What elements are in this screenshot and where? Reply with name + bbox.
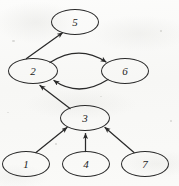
graph-node-6[interactable]: 6: [101, 58, 149, 84]
graph-node-label: 4: [83, 159, 89, 170]
graph-node-7[interactable]: 7: [121, 151, 169, 177]
graph-node-2[interactable]: 2: [8, 58, 58, 84]
scan-speck: [170, 120, 172, 122]
scan-speck: [55, 143, 57, 145]
graph-node-label: 6: [122, 66, 128, 77]
scan-speck: [100, 96, 102, 97]
graph-node-5[interactable]: 5: [51, 9, 99, 35]
scan-speck: [12, 40, 15, 42]
graph-node-1[interactable]: 1: [2, 151, 50, 177]
scan-speck: [7, 112, 9, 113]
graph-node-label: 7: [142, 159, 148, 170]
graph-node-label: 3: [82, 113, 88, 124]
graph-node-label: 1: [23, 159, 29, 170]
scan-speck: [160, 30, 162, 32]
graph-node-4[interactable]: 4: [62, 151, 110, 177]
graph-node-label: 2: [30, 66, 36, 77]
edge-6-to-2: [54, 80, 108, 90]
edge-3-to-2: [40, 86, 70, 109]
directed-graph-figure: 5 2 6 3 1 4 7: [0, 0, 179, 186]
graph-node-label: 5: [72, 17, 78, 28]
edge-7-to-3: [105, 128, 134, 153]
edge-2-to-5: [27, 33, 63, 59]
edge-2-to-6: [50, 53, 106, 62]
graph-node-3[interactable]: 3: [60, 105, 110, 131]
edge-1-to-3: [36, 128, 67, 153]
